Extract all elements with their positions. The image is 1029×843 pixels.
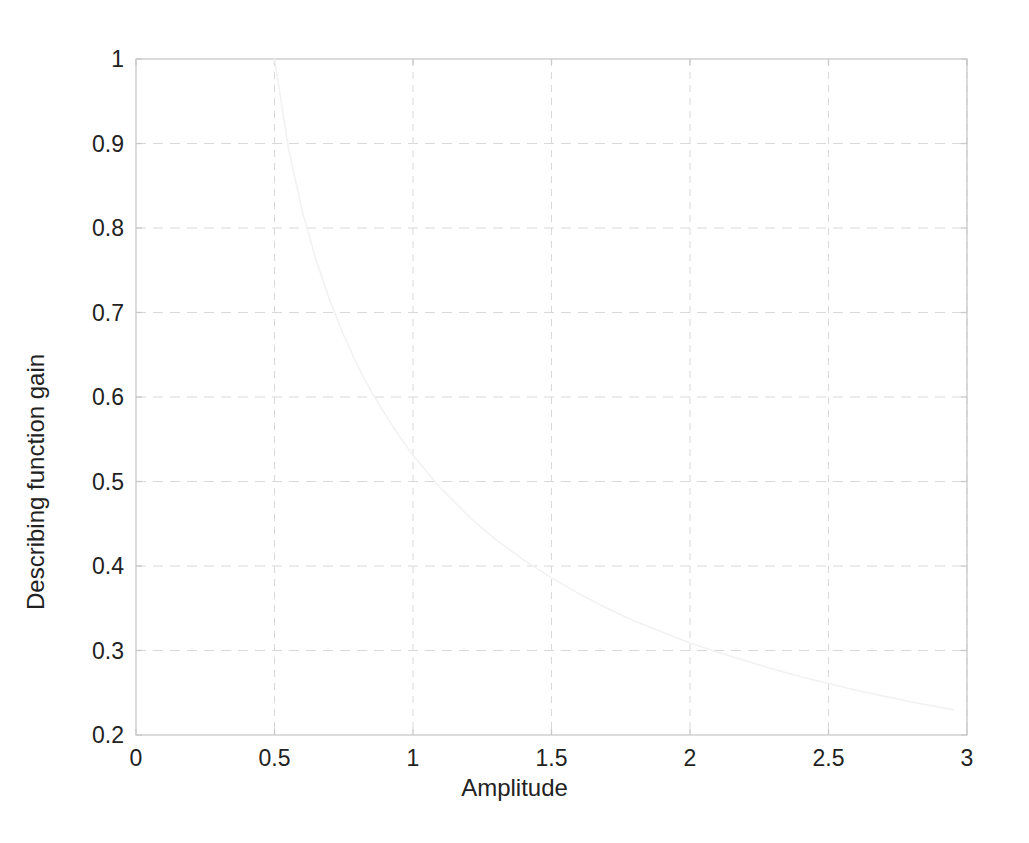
x-tick-label: 0.5 — [259, 747, 291, 770]
y-tick-label: 0.8 — [14, 217, 124, 240]
x-tick-label: 1 — [407, 747, 420, 770]
x-axis-title: Amplitude — [0, 776, 1029, 800]
y-tick-label: 0.2 — [14, 724, 124, 747]
data-series-group — [275, 59, 954, 710]
y-tick-label: 0.6 — [14, 386, 124, 409]
x-tick-label: 2 — [684, 747, 697, 770]
x-tick-label: 3 — [961, 747, 974, 770]
data-line — [275, 59, 954, 710]
y-tick-label: 1 — [14, 48, 124, 71]
x-tick-label: 0 — [130, 747, 143, 770]
x-tick-label: 1.5 — [536, 747, 568, 770]
figure-canvas: Describing function gain Amplitude 0.20.… — [0, 0, 1029, 843]
grid-lines — [136, 59, 967, 735]
y-tick-label: 0.4 — [14, 555, 124, 578]
y-tick-label: 0.3 — [14, 639, 124, 662]
y-tick-label: 0.7 — [14, 301, 124, 324]
y-tick-label: 0.9 — [14, 132, 124, 155]
plot-svg — [0, 0, 1029, 843]
y-tick-label: 0.5 — [14, 470, 124, 493]
x-tick-label: 2.5 — [813, 747, 845, 770]
